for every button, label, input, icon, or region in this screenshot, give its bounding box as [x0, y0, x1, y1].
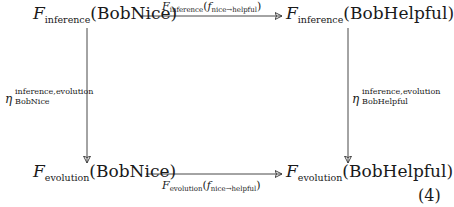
eta-subscript: BobNice [15, 98, 50, 106]
left-arrow-label: η inference,evolution BobNice [5, 93, 12, 105]
close-paren: ) [256, 179, 260, 192]
eta-symbol: η [352, 92, 359, 106]
node-bottom-right: Fevolution(BobHelpful) [286, 163, 453, 183]
morphism-subscript: nice→helpful [211, 185, 256, 193]
node-bottom-left: Fevolution(BobNice) [33, 163, 176, 183]
functor-symbol: F [33, 161, 45, 181]
functor-symbol: F [33, 3, 45, 23]
right-arrow-label: η inference,evolution BobHelpful [352, 93, 359, 105]
eta-symbol: η [5, 92, 12, 106]
functor-symbol: F [286, 3, 298, 23]
top-arrow-label: Finference(fnice→helpful) [162, 1, 261, 14]
bottom-arrow-label: Fevolution(fnice→helpful) [162, 180, 261, 193]
functor-subscript: inference [298, 14, 344, 25]
close-paren: ) [257, 0, 261, 13]
functor-subscript: evolution [298, 172, 343, 183]
eta-superscript: inference,evolution [15, 88, 93, 96]
object-name: (BobNice) [89, 161, 176, 181]
functor-subscript: inference [170, 6, 204, 14]
eta-subscript: BobHelpful [362, 98, 408, 106]
functor-symbol: F [162, 179, 170, 192]
functor-subscript: evolution [170, 185, 203, 193]
functor-subscript: evolution [45, 172, 90, 183]
object-name: (BobHelpful) [343, 3, 454, 23]
node-top-left: Finference(BobNice) [33, 5, 177, 25]
functor-symbol: F [162, 0, 170, 13]
functor-subscript: inference [45, 14, 91, 25]
node-top-right: Finference(BobHelpful) [286, 5, 454, 25]
object-name: (BobHelpful) [342, 161, 453, 181]
functor-symbol: F [286, 161, 298, 181]
equation-number: (4) [418, 188, 441, 204]
eta-superscript: inference,evolution [362, 88, 440, 96]
morphism-subscript: nice→helpful [212, 6, 257, 14]
